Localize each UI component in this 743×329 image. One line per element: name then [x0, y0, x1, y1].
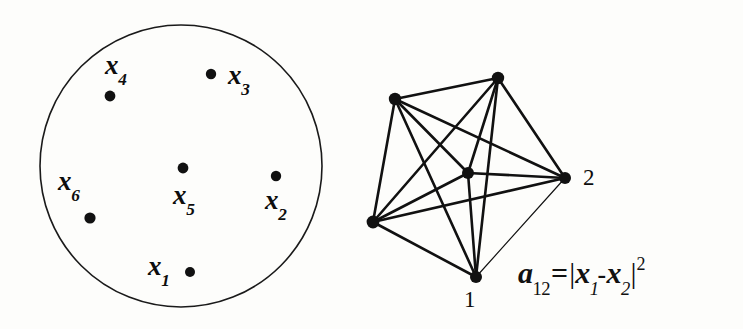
formula-exponent: 2: [636, 254, 645, 274]
point-label-x3: x3: [228, 62, 249, 94]
graph-edge-n1-n4: [395, 99, 476, 277]
graph-node-label-1: 1: [464, 288, 476, 311]
figure-canvas: x4 x3 x6 x5 x2 x1 1 2 a12=|x1-x2|2: [0, 0, 743, 329]
graph-node-n3: [492, 72, 504, 84]
graph-edge-n5-n6: [373, 173, 468, 222]
graph-node-n5: [367, 216, 380, 229]
graph-node-n4: [389, 93, 401, 105]
point-dot-x1: [185, 267, 195, 277]
graph-edge-n1-n3: [476, 78, 498, 277]
formula-x-first: x: [575, 256, 590, 289]
graph-node-label-2: 2: [583, 166, 595, 189]
graph-edge-n2-n6: [468, 173, 565, 178]
graph-node-n1: [470, 271, 482, 283]
graph-edge-n4-n6: [395, 99, 468, 173]
point-label-x4: x4: [105, 52, 126, 84]
graph-edge-n4-n5: [373, 99, 395, 222]
point-dot-x6: [84, 212, 95, 223]
formula-a: a: [518, 256, 533, 289]
graph-node-n6: [462, 167, 474, 179]
point-set-group: [40, 25, 322, 307]
edge-weight-formula: a12=|x1-x2|2: [518, 256, 645, 295]
point-dot-x5: [178, 163, 189, 174]
point-label-x2: x2: [265, 187, 286, 219]
point-dot-x3: [206, 69, 216, 79]
formula-x-second-subscript: 2: [621, 278, 630, 299]
graph-edge-n1-n5: [373, 222, 476, 277]
formula-x-second: x: [607, 256, 622, 289]
graph-node-n2: [559, 172, 571, 184]
point-dot-x4: [105, 91, 116, 102]
formula-a-subscript: 12: [533, 278, 551, 299]
point-label-x1: x1: [148, 253, 169, 285]
point-label-x5: x5: [173, 182, 194, 214]
formula-equals: =: [550, 256, 569, 289]
point-label-x6: x6: [58, 168, 79, 200]
formula-minus: -: [598, 260, 606, 289]
point-dot-x2: [271, 171, 281, 181]
graph-group: [367, 72, 571, 283]
